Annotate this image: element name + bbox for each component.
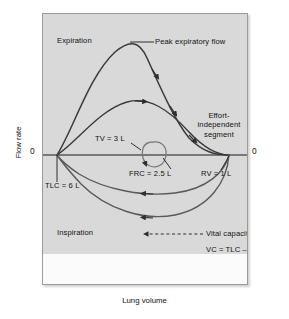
- plot-area: Expiration Peak expiratory flow Effort- …: [42, 13, 248, 285]
- tlc-label: TLC = 6 L: [45, 181, 79, 190]
- maximal-inspiratory-arrow: [142, 217, 153, 218]
- submaximal-expiratory-arrow: [135, 101, 146, 102]
- peak-expiratory-flow-label: Peak expiratory flow: [155, 37, 225, 46]
- expiration-label: Expiration: [57, 36, 92, 45]
- y-axis-title: Flow rate: [14, 113, 23, 173]
- x-axis-title: Lung volume: [0, 296, 289, 305]
- effort-independent-segment-label: Effort- independent segment: [193, 111, 245, 139]
- inspiration-label: Inspiration: [57, 228, 93, 237]
- tv-leader-line: [131, 143, 141, 150]
- flow-volume-loop-figure: 0 0 Flow rate Lung volume: [0, 0, 289, 319]
- y-axis-zero-right-label: 0: [252, 146, 257, 156]
- effort-independent-line-2: independent: [198, 120, 241, 129]
- rv-label: RV = 1 L: [201, 169, 231, 178]
- frc-leader-line: [163, 158, 171, 169]
- maximal-inspiratory-curve: [57, 155, 229, 217]
- frc-label: FRC = 2.5 L: [129, 169, 171, 178]
- vital-capacity-label: Vital capacity: [206, 229, 248, 238]
- effort-independent-line-1: Effort-: [208, 111, 229, 120]
- y-axis-zero-left-label: 0: [30, 146, 35, 156]
- submaximal-inspiratory-arrow: [142, 194, 153, 195]
- effort-independent-line-3: segment: [204, 130, 234, 139]
- vc-formula-label: VC = TLC – RV: [206, 245, 248, 254]
- tidal-volume-label: TV = 3 L: [95, 134, 125, 143]
